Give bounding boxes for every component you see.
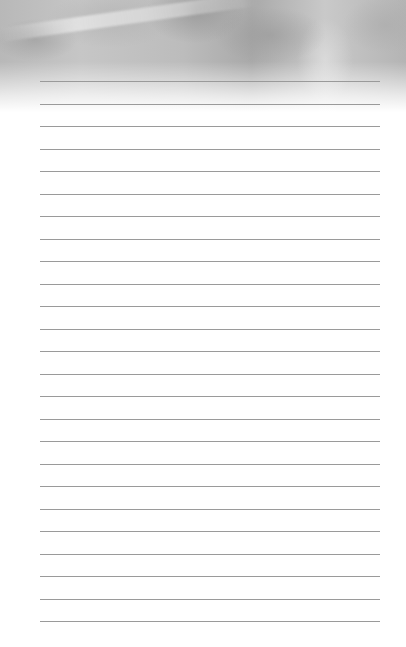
ruled-line xyxy=(40,284,380,285)
ruled-line xyxy=(40,351,380,352)
ruled-line xyxy=(40,329,380,330)
ruled-line xyxy=(40,239,380,240)
ruled-line xyxy=(40,599,380,600)
ruled-line xyxy=(40,419,380,420)
ruled-line xyxy=(40,554,380,555)
ruled-line xyxy=(40,464,380,465)
ruled-line xyxy=(40,216,380,217)
ruled-line xyxy=(40,531,380,532)
ruled-line xyxy=(40,104,380,105)
ruled-line xyxy=(40,126,380,127)
ruled-line xyxy=(40,306,380,307)
ruled-line xyxy=(40,374,380,375)
ruled-line xyxy=(40,81,380,82)
ruled-line xyxy=(40,576,380,577)
ruled-line xyxy=(40,261,380,262)
ruled-line xyxy=(40,171,380,172)
ruled-line xyxy=(40,441,380,442)
ruled-line xyxy=(40,621,380,622)
ruled-line xyxy=(40,194,380,195)
ruled-line xyxy=(40,486,380,487)
ruled-line xyxy=(40,509,380,510)
ruled-line xyxy=(40,396,380,397)
ruled-line xyxy=(40,149,380,150)
ruled-lines-area[interactable] xyxy=(0,0,406,647)
